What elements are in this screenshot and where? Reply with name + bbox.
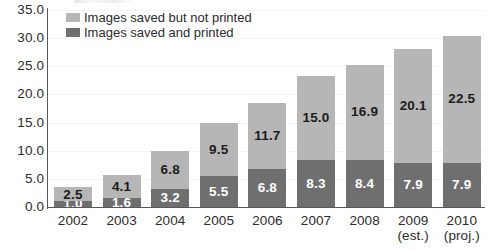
legend-swatch-icon-light	[66, 13, 80, 22]
bar-value-label-not-printed-2004: 6.8	[161, 163, 180, 177]
bar-value-label-not-printed-2003: 4.1	[112, 180, 131, 194]
bar-segment-printed-2006[interactable]: 6.8	[248, 169, 286, 207]
y-axis-tick-20.0: 20.0	[0, 88, 44, 102]
bar-segment-printed-2003[interactable]: 1.6	[103, 198, 141, 207]
bar-value-label-not-printed-2009: 20.1	[400, 99, 427, 113]
bar-segment-not-printed-2002[interactable]: 2.5	[54, 187, 92, 201]
y-axis-tick-35.0: 35.0	[0, 3, 44, 17]
bar-segment-not-printed-2004[interactable]: 6.8	[151, 151, 189, 189]
bar-value-label-printed-2007: 8.3	[306, 177, 325, 191]
y-axis-line	[47, 8, 48, 209]
bar-value-label-not-printed-2007: 15.0	[302, 111, 329, 125]
x-axis-tick-year: 2006	[252, 213, 282, 228]
chart-legend: Images saved but not printed Images save…	[66, 11, 252, 41]
x-axis-tick-year: 2003	[106, 213, 136, 228]
x-axis-tick-2010: 2010(proj.)	[427, 213, 490, 243]
x-axis-tick-year: 2009	[398, 213, 428, 228]
bar-segment-printed-2010[interactable]: 7.9	[443, 163, 481, 207]
bar-segment-not-printed-2006[interactable]: 11.7	[248, 103, 286, 169]
x-axis-tick-year: 2002	[58, 213, 88, 228]
bar-value-label-not-printed-2010: 22.5	[448, 92, 475, 106]
legend-label-saved-not-printed: Images saved but not printed	[84, 11, 252, 24]
legend-label-saved-and-printed: Images saved and printed	[84, 26, 234, 39]
bar-group-2008[interactable]: 8.416.9	[346, 10, 384, 207]
y-axis-tick-25.0: 25.0	[0, 60, 44, 74]
bar-value-label-printed-2008: 8.4	[355, 177, 374, 191]
bar-segment-printed-2008[interactable]: 8.4	[346, 160, 384, 207]
bar-segment-not-printed-2007[interactable]: 15.0	[297, 76, 335, 160]
bar-value-label-printed-2006: 6.8	[258, 181, 277, 195]
x-axis-tick-year: 2008	[349, 213, 379, 228]
bar-segment-printed-2007[interactable]: 8.3	[297, 160, 335, 207]
bar-segment-printed-2009[interactable]: 7.9	[394, 163, 432, 207]
bar-group-2007[interactable]: 8.315.0	[297, 10, 335, 207]
bar-segment-not-printed-2009[interactable]: 20.1	[394, 49, 432, 162]
x-axis-tick-year: 2007	[301, 213, 331, 228]
bar-group-2009[interactable]: 7.920.1	[394, 10, 432, 207]
bar-value-label-not-printed-2008: 16.9	[351, 105, 378, 119]
x-axis-line	[47, 207, 485, 208]
y-axis-tick-0.0: 0.0	[0, 200, 44, 214]
bar-value-label-not-printed-2006: 11.7	[254, 129, 280, 143]
legend-item-saved-not-printed: Images saved but not printed	[66, 11, 252, 24]
x-axis-tick-year: 2004	[155, 213, 185, 228]
bar-group-2010[interactable]: 7.922.5	[443, 10, 481, 207]
bar-value-label-not-printed-2005: 9.5	[209, 143, 228, 157]
bar-value-label-printed-2004: 3.2	[161, 191, 180, 205]
bar-segment-printed-2005[interactable]: 5.5	[200, 176, 238, 207]
bar-value-label-not-printed-2002: 2.5	[63, 188, 82, 202]
cropped-title-artifact	[74, 0, 134, 3]
y-axis-tick-10.0: 10.0	[0, 144, 44, 158]
x-axis-tick-year: 2005	[204, 213, 234, 228]
bar-segment-not-printed-2005[interactable]: 9.5	[200, 123, 238, 176]
stacked-bar-chart: 0.05.010.015.020.025.030.035.0 1.02.51.6…	[0, 0, 490, 251]
x-axis-tick-year: 2010	[447, 213, 477, 228]
legend-item-saved-and-printed: Images saved and printed	[66, 26, 252, 39]
bar-value-label-printed-2009: 7.9	[404, 178, 423, 192]
y-axis-tick-15.0: 15.0	[0, 116, 44, 130]
bar-segment-not-printed-2008[interactable]: 16.9	[346, 65, 384, 160]
bar-value-label-printed-2010: 7.9	[452, 178, 471, 192]
bar-segment-printed-2004[interactable]: 3.2	[151, 189, 189, 207]
y-axis-tick-30.0: 30.0	[0, 31, 44, 45]
bar-group-2006[interactable]: 6.811.7	[248, 10, 286, 207]
x-axis-tick-qualifier: (proj.)	[427, 228, 490, 243]
y-axis-tick-5.0: 5.0	[0, 172, 44, 186]
bar-segment-not-printed-2003[interactable]: 4.1	[103, 175, 141, 198]
bar-segment-not-printed-2010[interactable]: 22.5	[443, 36, 481, 163]
legend-swatch-icon-dark	[66, 28, 80, 37]
bar-value-label-printed-2005: 5.5	[209, 185, 228, 199]
